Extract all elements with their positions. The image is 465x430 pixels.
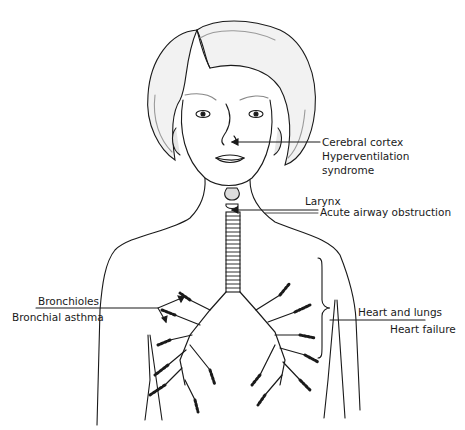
trachea <box>225 188 240 292</box>
face <box>173 94 282 186</box>
label-heart-and-lungs: Heart and lungs <box>358 306 442 319</box>
label-hyperventilation: Hyperventilation <box>322 150 409 163</box>
label-cerebral-cortex: Cerebral cortex <box>322 136 403 149</box>
label-heart-failure: Heart failure <box>390 323 456 336</box>
label-bronchial-asthma: Bronchial asthma <box>12 311 104 324</box>
label-acute-airway-obstruction: Acute airway obstruction <box>320 206 451 219</box>
bronchial-tree <box>150 283 318 412</box>
label-bronchioles: Bronchioles <box>38 295 99 308</box>
label-syndrome: syndrome <box>322 164 374 177</box>
